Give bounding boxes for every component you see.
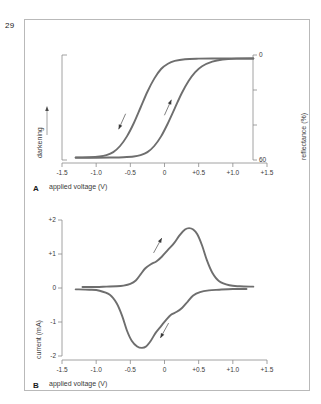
figure-page: 29 darkening reflectance (%) applied vol… bbox=[0, 0, 321, 404]
panel-b-y-tick-label: +2 bbox=[36, 216, 56, 223]
panel-b-y-tick-label: +1 bbox=[36, 250, 56, 257]
panel-b-x-tick-label: +1.5 bbox=[255, 366, 279, 373]
panel-a-x-tick-label: -0.5 bbox=[118, 169, 142, 176]
panel-a-x-tick-label: +1.5 bbox=[255, 169, 279, 176]
panel-a-x-tick-label: -1.5 bbox=[50, 169, 74, 176]
panel-a-letter: A bbox=[33, 184, 39, 193]
panel-b-y-tick-label: -2 bbox=[36, 352, 56, 359]
panel-a-right-tick-label: 0 bbox=[259, 51, 263, 58]
panel-b-x-tick-label: -0.5 bbox=[118, 366, 142, 373]
panel-b-x-tick-label: -1.5 bbox=[50, 366, 74, 373]
panel-a-x-axis-title: applied voltage (V) bbox=[49, 183, 107, 190]
panel-a-x-tick-label: -1.0 bbox=[84, 169, 108, 176]
panel-b-y-tick-label: -1 bbox=[36, 318, 56, 325]
panel-b-x-tick-label: +1.0 bbox=[221, 366, 245, 373]
panel-a-curve-reverse-sweep bbox=[76, 59, 254, 158]
panel-a-x-tick-label: 0 bbox=[153, 169, 177, 176]
panel-b-x-tick-label: +0.5 bbox=[187, 366, 211, 373]
panel-a-x-tick-label: +0.5 bbox=[187, 169, 211, 176]
panel-b-curve-cathodic-sweep bbox=[76, 289, 247, 348]
panel-a-right-tick-label: 60 bbox=[259, 156, 266, 163]
panel-a-right-axis-title: reflectance (%) bbox=[300, 113, 307, 160]
panel-b-curve-anodic-sweep bbox=[83, 228, 254, 287]
panel-b-x-tick-label: 0 bbox=[153, 366, 177, 373]
panel-b: current (mA) applied voltage (V) B -2-10… bbox=[0, 196, 321, 404]
panel-b-y-tick-label: 0 bbox=[36, 284, 56, 291]
panel-b-letter: B bbox=[33, 381, 39, 390]
panel-b-x-axis-title: applied voltage (V) bbox=[49, 380, 107, 387]
panel-b-x-tick-label: -1.0 bbox=[84, 366, 108, 373]
panel-a-x-tick-label: +1.0 bbox=[221, 169, 245, 176]
panel-a: darkening reflectance (%) applied voltag… bbox=[0, 0, 321, 205]
panel-a-curve-forward-sweep bbox=[76, 58, 254, 157]
panel-a-left-bracket bbox=[62, 55, 67, 160]
panel-a-left-axis-title: darkening bbox=[36, 127, 43, 158]
darkening-arrow-head bbox=[45, 106, 49, 111]
